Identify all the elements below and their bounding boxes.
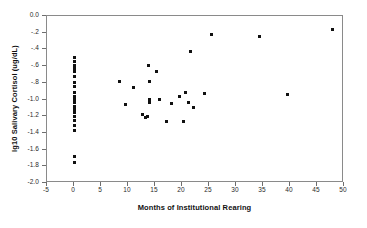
y-tick-mark <box>42 15 46 16</box>
x-tick-label: 10 <box>115 186 139 193</box>
data-point <box>182 120 185 123</box>
x-tick-label: 0 <box>61 186 85 193</box>
data-point <box>192 106 195 109</box>
data-point <box>132 86 135 89</box>
data-point <box>73 129 76 132</box>
y-tick-mark <box>42 149 46 150</box>
data-point <box>331 28 334 31</box>
data-point <box>148 80 151 83</box>
y-tick-label: -1.8 <box>0 161 39 168</box>
data-point <box>73 124 76 127</box>
data-point <box>178 95 181 98</box>
y-tick-mark <box>42 82 46 83</box>
y-tick-mark <box>42 165 46 166</box>
data-point <box>203 92 206 95</box>
x-tick-label: 35 <box>250 186 274 193</box>
data-points-layer <box>47 16 342 181</box>
y-tick-label: -1.0 <box>0 95 39 102</box>
scatter-plot-figure: -505101520253035404550 0.0-.2-.4-.6-.8-1… <box>0 0 367 228</box>
data-point <box>73 75 76 78</box>
data-point <box>73 115 76 118</box>
data-point <box>286 93 289 96</box>
y-tick-label: -.8 <box>0 78 39 85</box>
data-point <box>148 101 151 104</box>
x-tick-label: 20 <box>169 186 193 193</box>
y-tick-label: -.6 <box>0 61 39 68</box>
x-tick-label: 50 <box>331 186 355 193</box>
data-point <box>184 91 187 94</box>
data-point <box>146 115 149 118</box>
y-tick-label: -1.6 <box>0 145 39 152</box>
y-tick-label: 0.0 <box>0 11 39 18</box>
x-tick-label: 30 <box>223 186 247 193</box>
data-point <box>118 80 121 83</box>
plot-area <box>46 15 343 182</box>
y-tick-mark <box>42 115 46 116</box>
x-tick-label: 15 <box>142 186 166 193</box>
data-point <box>258 35 261 38</box>
data-point <box>73 81 76 84</box>
y-tick-mark <box>42 132 46 133</box>
y-tick-label: -.4 <box>0 44 39 51</box>
data-point <box>189 50 192 53</box>
data-point <box>73 155 76 158</box>
x-tick-label: 40 <box>277 186 301 193</box>
data-point <box>124 103 127 106</box>
data-point <box>73 161 76 164</box>
y-tick-mark <box>42 32 46 33</box>
y-tick-label: -.2 <box>0 28 39 35</box>
x-tick-label: -5 <box>34 186 58 193</box>
data-point <box>155 70 158 73</box>
y-tick-label: -2.0 <box>0 178 39 185</box>
data-point <box>210 33 213 36</box>
data-point <box>73 70 76 73</box>
x-tick-label: 25 <box>196 186 220 193</box>
y-tick-mark <box>42 65 46 66</box>
data-point <box>73 56 76 59</box>
y-tick-mark <box>42 182 46 183</box>
x-tick-label: 5 <box>88 186 112 193</box>
y-tick-label: -1.4 <box>0 128 39 135</box>
data-point <box>73 85 76 88</box>
y-tick-mark <box>42 48 46 49</box>
x-axis-title: Months of Institutional Rearing <box>46 203 343 212</box>
data-point <box>170 102 173 105</box>
data-point <box>165 120 168 123</box>
data-point <box>187 101 190 104</box>
y-tick-label: -1.2 <box>0 111 39 118</box>
y-tick-mark <box>42 99 46 100</box>
data-point <box>158 98 161 101</box>
data-point <box>73 119 76 122</box>
y-axis-title: lg10 Salivary Cortisol (ug/dL) <box>10 14 19 184</box>
x-tick-label: 45 <box>304 186 328 193</box>
data-point <box>147 64 150 67</box>
